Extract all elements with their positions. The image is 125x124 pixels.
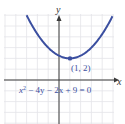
- vertex-point: [68, 56, 72, 60]
- equation-label: x2 − 4y − 2x + 9 = 0: [18, 85, 92, 96]
- vertex-label: (1, 2): [71, 63, 91, 73]
- parabola-graph: x y (1, 2) x2 − 4y − 2x + 9 = 0: [0, 0, 125, 124]
- y-axis-arrow-icon: [57, 15, 62, 21]
- equation-rest: − 4y − 2x + 9 = 0: [26, 85, 92, 95]
- x-axis-label: x: [116, 76, 122, 87]
- y-axis-label: y: [55, 4, 61, 15]
